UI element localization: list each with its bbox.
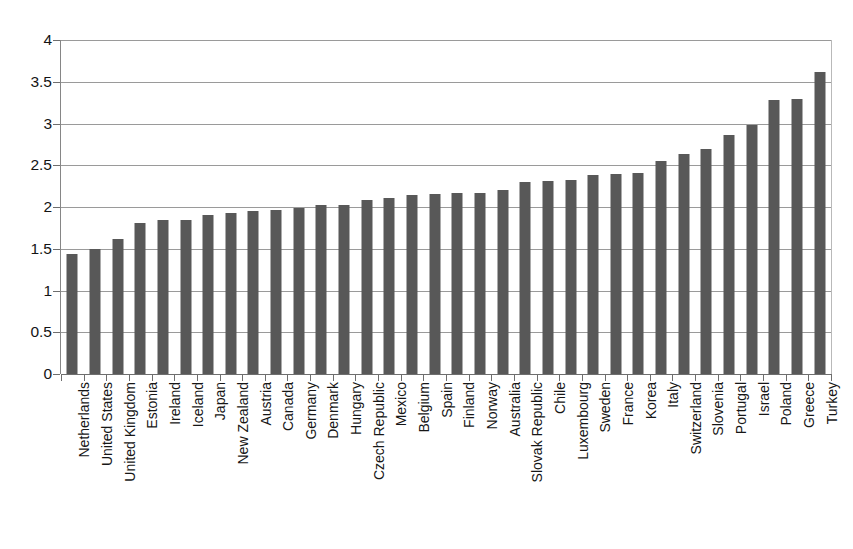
bar[interactable]	[384, 198, 395, 374]
bar[interactable]	[769, 100, 780, 374]
x-axis-tick-label-text: Chile	[553, 382, 567, 414]
bar[interactable]	[316, 205, 327, 374]
bar[interactable]	[474, 193, 485, 374]
y-axis-tick-label: 3.5	[0, 74, 52, 90]
x-axis-tick-label-text: Greece	[802, 382, 816, 428]
x-axis-tick-label-text: Finland	[462, 382, 476, 428]
bar-slot	[84, 40, 107, 374]
bar[interactable]	[407, 195, 418, 374]
bar-slot	[197, 40, 220, 374]
bar[interactable]	[67, 254, 78, 374]
x-axis-tick-label-text: Mexico	[394, 382, 408, 426]
x-axis-tick-label-text: Denmark	[326, 382, 340, 439]
bar[interactable]	[542, 181, 553, 374]
bar[interactable]	[814, 72, 825, 374]
x-axis-tick-mark	[310, 374, 311, 381]
bar[interactable]	[520, 182, 531, 374]
bar-slot	[740, 40, 763, 374]
bar-slot	[378, 40, 401, 374]
x-axis-tick-label-text: Luxembourg	[576, 382, 590, 460]
y-axis-tick-mark	[53, 82, 60, 83]
bar-slot	[672, 40, 695, 374]
bar[interactable]	[633, 173, 644, 374]
x-axis-tick-mark	[831, 374, 832, 381]
x-axis-tick-mark	[106, 374, 107, 381]
bar[interactable]	[610, 174, 621, 374]
x-axis-tick-label: Sweden	[598, 382, 612, 433]
bars-layer	[61, 40, 831, 374]
bar[interactable]	[588, 175, 599, 374]
x-axis-tick-label: Poland	[779, 382, 793, 426]
bar[interactable]	[225, 213, 236, 374]
bar[interactable]	[157, 220, 168, 374]
x-axis-tick-label: Luxembourg	[576, 382, 590, 460]
x-axis-tick-mark	[152, 374, 153, 381]
bar-slot	[401, 40, 424, 374]
x-axis-tick-mark	[401, 374, 402, 381]
bar[interactable]	[656, 161, 667, 374]
x-axis-tick-label-text: Italy	[666, 382, 680, 408]
y-axis-tick-mark	[53, 207, 60, 208]
bar[interactable]	[89, 249, 100, 374]
x-axis-tick-label: Greece	[802, 382, 816, 428]
y-axis-tick-label: 1.5	[0, 241, 52, 257]
bar-slot	[763, 40, 786, 374]
bar-slot	[106, 40, 129, 374]
bar-slot	[582, 40, 605, 374]
x-axis-tick-label: France	[621, 382, 635, 426]
bar[interactable]	[180, 220, 191, 374]
bar[interactable]	[248, 211, 259, 374]
x-axis-tick-label: Portugal	[734, 382, 748, 434]
bar[interactable]	[724, 135, 735, 374]
bar-slot	[559, 40, 582, 374]
x-axis-tick-label: Slovenia	[711, 382, 725, 436]
x-axis-tick-mark	[423, 374, 424, 381]
bar-slot	[537, 40, 560, 374]
bar[interactable]	[746, 125, 757, 374]
x-axis-tick-label: Germany	[304, 382, 318, 440]
bar[interactable]	[339, 205, 350, 374]
bar[interactable]	[678, 154, 689, 374]
x-axis-tick-label: Finland	[462, 382, 476, 428]
x-axis-tick-label: Slovak Republic	[530, 382, 544, 482]
bar-slot	[310, 40, 333, 374]
bar[interactable]	[792, 99, 803, 374]
x-axis-tick-label: United Kingdom	[123, 382, 137, 482]
bar[interactable]	[112, 239, 123, 374]
bar[interactable]	[135, 223, 146, 374]
x-axis-tick-mark	[537, 374, 538, 381]
bar-slot	[491, 40, 514, 374]
bar-slot	[605, 40, 628, 374]
bar-slot	[242, 40, 265, 374]
x-axis-tick-label-text: Austria	[259, 382, 273, 426]
bar[interactable]	[701, 149, 712, 374]
x-axis-tick-mark	[355, 374, 356, 381]
bar[interactable]	[429, 194, 440, 374]
bar[interactable]	[361, 200, 372, 374]
bar[interactable]	[271, 210, 282, 374]
bar[interactable]	[452, 193, 463, 374]
bar-slot	[650, 40, 673, 374]
bar[interactable]	[565, 180, 576, 374]
bar-slot	[152, 40, 175, 374]
bar[interactable]	[497, 190, 508, 374]
x-axis-tick-label-text: France	[621, 382, 635, 426]
x-axis-tick-label: Chile	[553, 382, 567, 414]
x-axis-tick-mark	[718, 374, 719, 381]
x-axis-tick-label-text: Slovenia	[711, 382, 725, 436]
bar[interactable]	[203, 215, 214, 374]
x-axis-tick-label: Australia	[508, 382, 522, 436]
x-axis-tick-label: Norway	[485, 382, 499, 429]
x-axis-tick-label-text: Japan	[213, 382, 227, 420]
x-axis-tick-mark	[559, 374, 560, 381]
x-axis-tick-label: Hungary	[349, 382, 363, 435]
x-axis-tick-label-text: Hungary	[349, 382, 363, 435]
x-axis-tick-mark	[378, 374, 379, 381]
x-axis-tick-mark	[650, 374, 651, 381]
bar[interactable]	[293, 208, 304, 374]
y-axis-tick-mark	[53, 374, 60, 375]
bar-slot	[446, 40, 469, 374]
y-axis-tick-label: 0.5	[0, 324, 52, 340]
x-axis-tick-mark	[786, 374, 787, 381]
x-axis-tick-label: Mexico	[394, 382, 408, 426]
